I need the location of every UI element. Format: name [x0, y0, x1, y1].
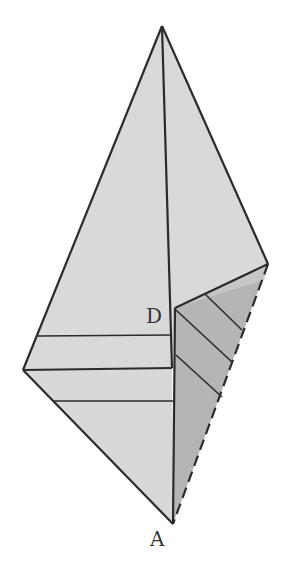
label-A: A: [149, 527, 165, 551]
label-D: D: [146, 304, 162, 328]
folded-pyramid-diagram: D A: [0, 0, 293, 574]
